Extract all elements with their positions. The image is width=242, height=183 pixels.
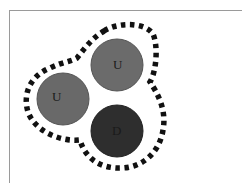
quark-label: D	[112, 123, 121, 138]
quark-down: D	[91, 105, 143, 157]
proton-diagram: U U D	[0, 0, 242, 183]
quark-up-top: U	[91, 39, 143, 91]
quark-label: U	[52, 89, 62, 104]
quark-label: U	[113, 57, 123, 72]
quark-circle	[37, 73, 89, 125]
quark-up-left: U	[37, 73, 89, 125]
